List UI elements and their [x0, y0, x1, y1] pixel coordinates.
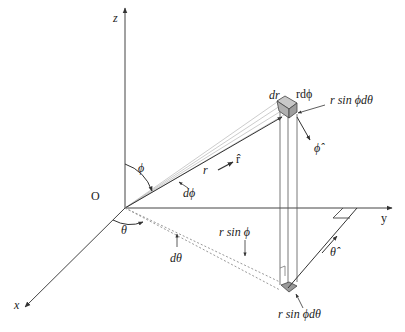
theta-hat-label: θ̂: [330, 245, 341, 259]
phi-hat-label: ϕ̂: [314, 141, 325, 155]
dphi-label: dϕ: [183, 186, 195, 200]
r-sin-phi-label: r sin ϕ: [219, 225, 250, 239]
r-sin-phi-dtheta-top-pointer: [298, 105, 325, 113]
r-dphi-label: rdϕ: [296, 87, 312, 101]
origin-label: O: [91, 189, 100, 203]
right-angle-marker-bottom: [280, 266, 285, 276]
radial-lines: [125, 100, 289, 208]
spherical-coordinates-diagram: z y x O ϕ θ dϕ r r̂ dθ r sin ϕ dr rdϕ r …: [0, 0, 405, 332]
z-axis-label: z: [112, 11, 118, 25]
theta-arc: [113, 220, 143, 225]
r-sin-phi-dtheta-bottom-pointer: [296, 294, 303, 308]
r-hat-label: r̂: [236, 152, 241, 166]
r-hat-arrow: [218, 162, 233, 170]
r-sin-phi-dtheta-bottom-label: r sin ϕdθ: [278, 307, 321, 321]
dtheta-label: dθ: [170, 251, 182, 265]
right-angle-marker-y: [333, 208, 350, 218]
projection-lines: [125, 208, 280, 290]
theta-line: [288, 208, 357, 288]
r-sin-phi-dtheta-top-label: r sin ϕdθ: [330, 93, 373, 107]
phi-hat-arrow: [297, 117, 310, 140]
r-label: r: [203, 163, 208, 177]
theta-label: θ: [121, 223, 127, 237]
x-axis-label: x: [13, 298, 20, 312]
phi-label: ϕ: [138, 161, 144, 175]
dr-label: dr: [269, 88, 280, 102]
x-axis: [25, 208, 125, 307]
vertical-lines: [280, 112, 297, 287]
y-axis-label: y: [381, 211, 387, 225]
